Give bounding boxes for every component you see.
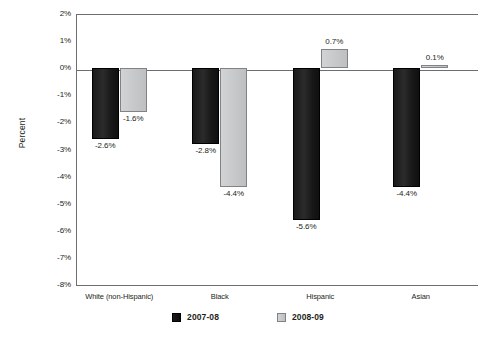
legend-label: 2007-08 bbox=[187, 312, 219, 322]
bar bbox=[421, 65, 448, 68]
y-axis-title: Percent bbox=[17, 98, 27, 168]
plot-area: -2.6%-1.6%-2.8%-4.4%-5.6%0.7%-4.4%0.1% bbox=[76, 14, 478, 286]
bar-value-label: -4.4% bbox=[382, 189, 431, 198]
y-tick-label: -6% bbox=[43, 226, 71, 235]
legend-label: 2008-09 bbox=[292, 312, 324, 322]
y-tick-label: 0% bbox=[43, 63, 71, 72]
y-tick-label: -1% bbox=[43, 90, 71, 99]
y-tick-label: -8% bbox=[43, 280, 71, 289]
y-tick-label: -2% bbox=[43, 117, 71, 126]
bar-group: -4.4%0.1% bbox=[76, 14, 478, 286]
x-tick-label: Asian bbox=[361, 292, 481, 301]
chart-legend: 2007-08 2008-09 bbox=[0, 312, 496, 322]
y-tick-label: -5% bbox=[43, 199, 71, 208]
bar-value-label: 0.1% bbox=[410, 53, 459, 62]
light-swatch-icon bbox=[277, 313, 286, 322]
legend-item-2008-09: 2008-09 bbox=[277, 312, 324, 322]
bar-chart: Percent 2%1%0%-1%-2%-3%-4%-5%-6%-7%-8% -… bbox=[0, 0, 496, 339]
y-tick-label: -4% bbox=[43, 172, 71, 181]
y-tick-label: -3% bbox=[43, 145, 71, 154]
legend-item-2007-08: 2007-08 bbox=[172, 312, 219, 322]
y-tick-label: -7% bbox=[43, 253, 71, 262]
y-tick-label: 1% bbox=[43, 36, 71, 45]
y-tick-label: 2% bbox=[43, 9, 71, 18]
dark-swatch-icon bbox=[172, 313, 181, 322]
bar bbox=[393, 68, 420, 187]
